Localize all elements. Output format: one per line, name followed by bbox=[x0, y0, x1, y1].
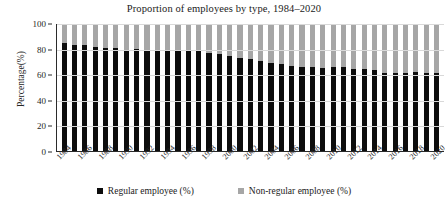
bar-segment-regular bbox=[72, 45, 77, 151]
bar-stack bbox=[72, 24, 77, 151]
bar-stack bbox=[341, 24, 346, 151]
bar-segment-regular bbox=[268, 63, 273, 151]
bar-stack bbox=[393, 24, 398, 151]
bar-segment-regular bbox=[299, 67, 304, 151]
bar-stack bbox=[175, 24, 180, 151]
x-axis-tick: 2018 bbox=[411, 153, 421, 183]
legend-swatch-icon bbox=[97, 188, 103, 194]
legend-item[interactable]: Regular employee (%) bbox=[97, 186, 194, 196]
y-axis-tick-label: 60 bbox=[37, 70, 46, 80]
bar-column bbox=[204, 24, 214, 151]
gridline bbox=[57, 24, 444, 25]
bar-segment-non-regular bbox=[413, 24, 418, 72]
y-axis-tick-label: 100 bbox=[33, 19, 47, 29]
bar-segment-non-regular bbox=[175, 24, 180, 51]
bar-stack bbox=[413, 24, 418, 151]
chart-container: Proportion of employees by type, 1984–20… bbox=[0, 0, 448, 212]
bar-column bbox=[59, 24, 69, 151]
bar-stack bbox=[93, 24, 98, 151]
bar-column bbox=[276, 24, 286, 151]
bar-segment-regular bbox=[434, 73, 439, 151]
bar-stack bbox=[331, 24, 336, 151]
x-axis-tick: 1996 bbox=[183, 153, 193, 183]
bar-column bbox=[369, 24, 379, 151]
x-axis-tick: 2010 bbox=[328, 153, 338, 183]
bar-stack bbox=[227, 24, 232, 151]
bar-stack bbox=[289, 24, 294, 151]
bar-column bbox=[411, 24, 421, 151]
bar-segment-non-regular bbox=[268, 24, 273, 63]
bar-column bbox=[359, 24, 369, 151]
gridline bbox=[57, 75, 444, 76]
bar-column bbox=[183, 24, 193, 151]
bar-segment-regular bbox=[331, 67, 336, 151]
bar-stack bbox=[258, 24, 263, 151]
bar-segment-regular bbox=[93, 47, 98, 151]
bar-segment-regular bbox=[382, 73, 387, 151]
bar-segment-non-regular bbox=[279, 24, 284, 64]
x-axis-tick bbox=[400, 153, 410, 183]
x-axis-tick: 2000 bbox=[224, 153, 234, 183]
bar-segment-regular bbox=[103, 48, 108, 151]
y-axis-tick-label: 40 bbox=[37, 96, 46, 106]
bar-segment-non-regular bbox=[299, 24, 304, 67]
bar-column bbox=[214, 24, 224, 151]
bar-segment-non-regular bbox=[382, 24, 387, 73]
bar-column bbox=[318, 24, 328, 151]
bar-segment-non-regular bbox=[144, 24, 149, 50]
bar-segment-non-regular bbox=[331, 24, 336, 67]
x-axis-labels: 1984198619881990199219941996199820002002… bbox=[56, 153, 444, 183]
x-axis-tick bbox=[89, 153, 99, 183]
x-axis-tick: 1986 bbox=[79, 153, 89, 183]
bar-segment-non-regular bbox=[372, 24, 377, 70]
bar-column bbox=[380, 24, 390, 151]
bar-segment-non-regular bbox=[72, 24, 77, 45]
bar-stack bbox=[165, 24, 170, 151]
bar-stack bbox=[362, 24, 367, 151]
y-axis-tick-mark bbox=[48, 24, 52, 25]
bar-segment-regular bbox=[403, 73, 408, 151]
legend-label: Regular employee (%) bbox=[108, 186, 194, 196]
bar-column bbox=[142, 24, 152, 151]
legend-item[interactable]: Non-regular employee (%) bbox=[238, 186, 351, 196]
bar-segment-non-regular bbox=[82, 24, 87, 45]
bar-column bbox=[162, 24, 172, 151]
bar-stack bbox=[186, 24, 191, 151]
bar-stack bbox=[82, 24, 87, 151]
y-axis-tick-mark bbox=[48, 126, 52, 127]
bar-segment-non-regular bbox=[124, 24, 129, 50]
bar-column bbox=[421, 24, 431, 151]
plot-area bbox=[56, 24, 444, 152]
bar-column bbox=[111, 24, 121, 151]
bar-segment-non-regular bbox=[155, 24, 160, 51]
gridline bbox=[57, 126, 444, 127]
x-axis-tick: 2016 bbox=[390, 153, 400, 183]
x-axis-tick: 2004 bbox=[266, 153, 276, 183]
bar-segment-non-regular bbox=[134, 24, 139, 49]
y-axis-tick-label: 0 bbox=[42, 147, 47, 157]
bar-segment-regular bbox=[393, 73, 398, 151]
bar-segment-non-regular bbox=[320, 24, 325, 68]
bar-stack bbox=[372, 24, 377, 151]
bar-stack bbox=[134, 24, 139, 151]
chart-title: Proportion of employees by type, 1984–20… bbox=[0, 3, 448, 14]
bar-column bbox=[338, 24, 348, 151]
bar-column bbox=[152, 24, 162, 151]
bar-segment-regular bbox=[362, 69, 367, 151]
bar-column bbox=[69, 24, 79, 151]
bar-segment-non-regular bbox=[258, 24, 263, 61]
bar-stack bbox=[268, 24, 273, 151]
bar-stack bbox=[424, 24, 429, 151]
y-axis-tick-label: 20 bbox=[37, 121, 46, 131]
x-axis-tick bbox=[172, 153, 182, 183]
bar-stack bbox=[299, 24, 304, 151]
bar-column bbox=[328, 24, 338, 151]
x-axis-tick: 1994 bbox=[162, 153, 172, 183]
bar-segment-non-regular bbox=[424, 24, 429, 73]
bar-segment-non-regular bbox=[403, 24, 408, 73]
bar-stack bbox=[310, 24, 315, 151]
bar-segment-non-regular bbox=[196, 24, 201, 51]
x-axis-tick bbox=[68, 153, 78, 183]
bar-segment-regular bbox=[113, 48, 118, 151]
bar-segment-non-regular bbox=[227, 24, 232, 56]
